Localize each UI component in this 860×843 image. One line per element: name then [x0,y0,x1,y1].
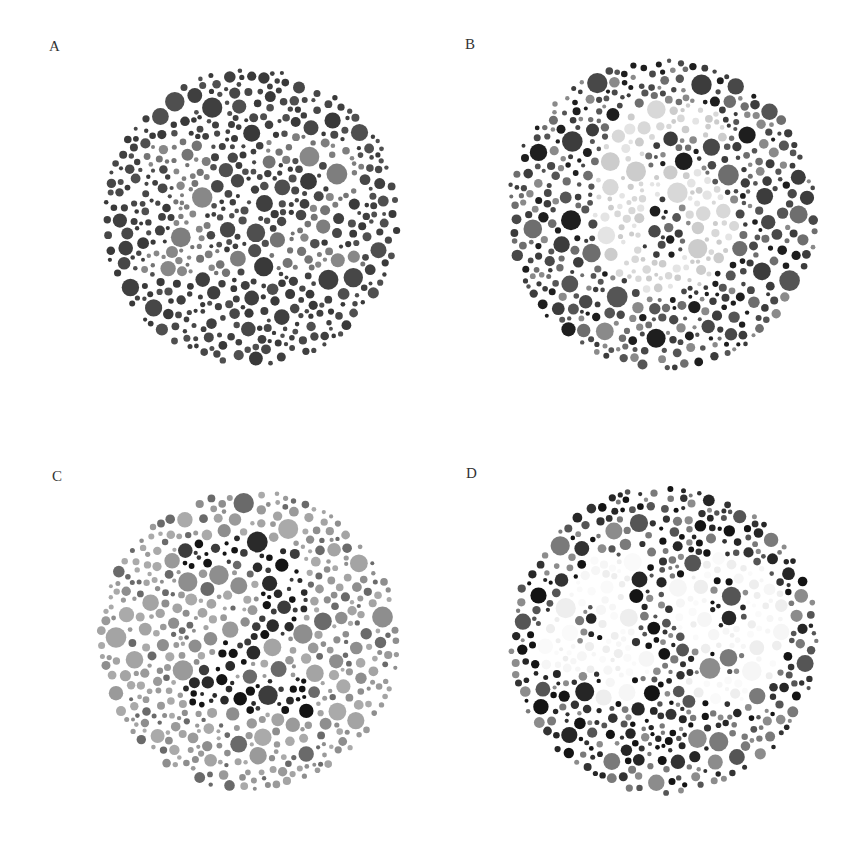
plate-c [97,491,399,790]
plate-d [509,486,819,796]
ishihara-plates-canvas [0,0,860,843]
plate-a [104,68,401,365]
plate-b [508,59,818,371]
